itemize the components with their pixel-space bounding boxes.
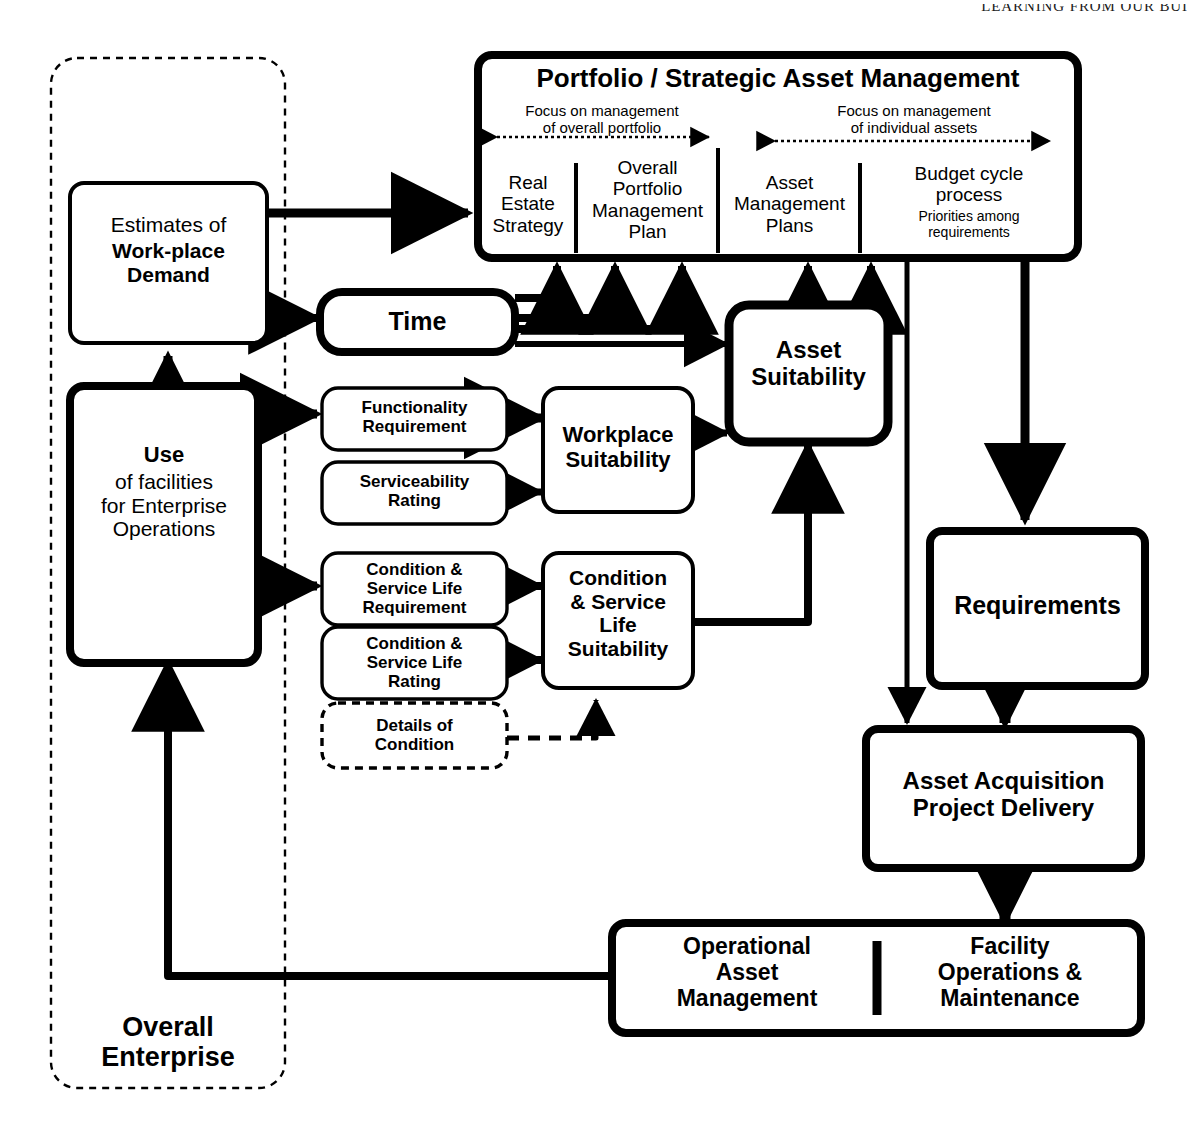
edge-time-to-portfolio-plan	[515, 266, 615, 318]
edge-details-to-cond-suit-dashed	[507, 700, 596, 738]
box-estimates-of-workplace-demand[interactable]	[70, 183, 267, 343]
box-asset-acquisition-project-delivery[interactable]	[866, 729, 1141, 868]
box-details-of-condition[interactable]	[322, 703, 507, 768]
box-portfolio-strategic-asset-management[interactable]	[478, 55, 1078, 258]
diagram-canvas: LEARNING FROM OUR BUI	[0, 0, 1188, 1146]
box-workplace-suitability[interactable]	[543, 388, 693, 512]
box-functionality-requirement[interactable]	[322, 388, 507, 450]
diagram-svg	[0, 0, 1188, 1146]
box-condition-service-life-requirement[interactable]	[322, 553, 507, 625]
box-requirements[interactable]	[930, 531, 1145, 686]
box-serviceability-rating[interactable]	[322, 462, 507, 524]
edge-cond-suit-to-asset-suitability	[693, 445, 808, 622]
box-condition-service-life-suitability[interactable]	[543, 553, 693, 688]
edge-time-to-real-estate-strategy	[515, 266, 557, 298]
box-condition-service-life-rating[interactable]	[322, 627, 507, 699]
box-use-of-facilities[interactable]	[70, 386, 258, 663]
box-asset-suitability[interactable]	[729, 305, 888, 442]
box-time[interactable]	[320, 292, 515, 352]
